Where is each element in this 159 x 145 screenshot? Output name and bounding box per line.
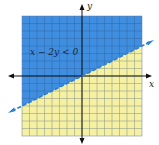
boundary-left-arrow-icon (8, 108, 16, 114)
y-axis-up-arrow-icon (80, 4, 85, 10)
x-axis-left-arrow-icon (8, 74, 14, 79)
x-axis-label: x (149, 80, 154, 89)
x-axis-right-arrow-icon (146, 74, 152, 79)
y-axis-label: y (87, 2, 92, 11)
y-axis-down-arrow-icon (80, 138, 85, 144)
inequality-label: x − 2y < 0 (30, 48, 78, 57)
inequality-graph (0, 0, 159, 145)
boundary-right-arrow-icon (147, 40, 155, 46)
